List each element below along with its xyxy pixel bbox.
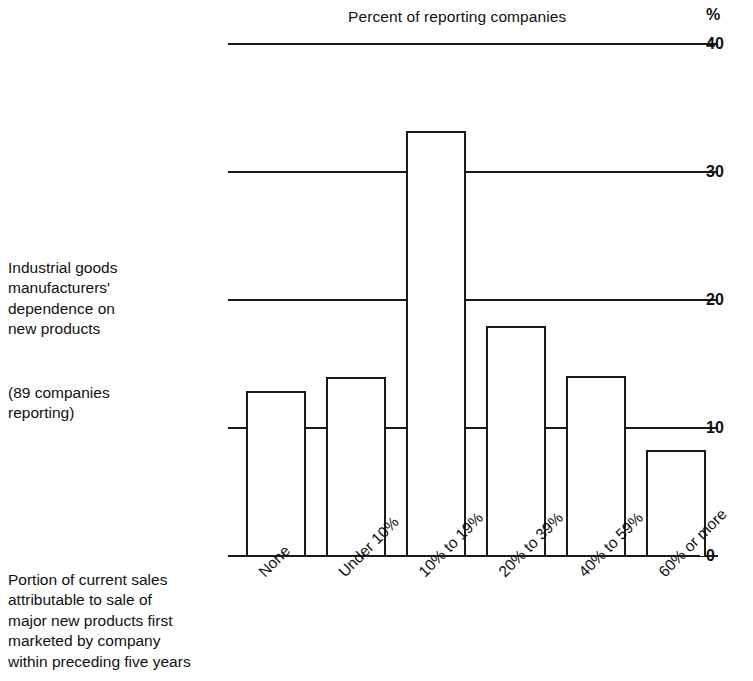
x-axis-baseline bbox=[228, 555, 700, 557]
gridline-20 bbox=[228, 299, 406, 301]
y-tick-label-0: 0 bbox=[706, 548, 715, 564]
gridline-10 bbox=[386, 427, 406, 429]
bar-2 bbox=[406, 131, 466, 556]
caption-company-count: (89 companies reporting) bbox=[8, 383, 110, 424]
bar-3 bbox=[486, 326, 546, 556]
gridline-10 bbox=[306, 427, 326, 429]
bar-0 bbox=[246, 391, 306, 556]
y-tick-label-30: 30 bbox=[706, 164, 724, 180]
y-tick-label-10: 10 bbox=[706, 420, 724, 436]
gridline-10 bbox=[466, 427, 486, 429]
y-tick-label-40: 40 bbox=[706, 36, 724, 52]
caption-x-axis-description: Portion of current sales attributable to… bbox=[8, 570, 191, 672]
gridline-10 bbox=[546, 427, 566, 429]
chart-title: Percent of reporting companies bbox=[348, 8, 566, 26]
gridline-20 bbox=[466, 299, 700, 301]
gridline-30 bbox=[228, 171, 406, 173]
gridline-40 bbox=[228, 43, 700, 45]
gridline-30 bbox=[466, 171, 700, 173]
gridline-10 bbox=[626, 427, 700, 429]
y-tick-label-20: 20 bbox=[706, 292, 724, 308]
gridline-10 bbox=[228, 427, 246, 429]
y-axis-unit-label: % bbox=[706, 6, 720, 24]
bar-chart: Percent of reporting companies % NoneUnd… bbox=[0, 0, 753, 681]
caption-main: Industrial goods manufacturers' dependen… bbox=[8, 258, 117, 340]
